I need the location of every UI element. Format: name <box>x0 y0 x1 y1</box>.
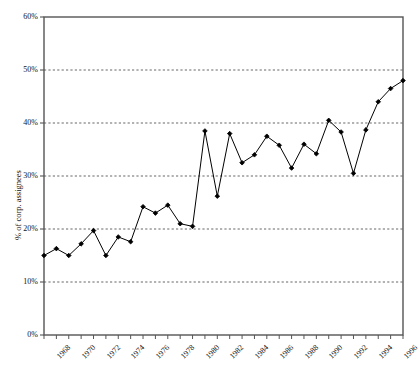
y-tick-label: 10% <box>8 277 38 286</box>
y-tick-label: 50% <box>8 65 38 74</box>
gridlines-group <box>44 70 403 282</box>
y-tick-label: 60% <box>8 12 38 21</box>
y-tick-label: 0% <box>8 330 38 339</box>
y-tick-label: 20% <box>8 224 38 233</box>
y-tick-label: 30% <box>8 171 38 180</box>
y-tick-label: 40% <box>8 118 38 127</box>
data-point-markers <box>42 78 406 257</box>
